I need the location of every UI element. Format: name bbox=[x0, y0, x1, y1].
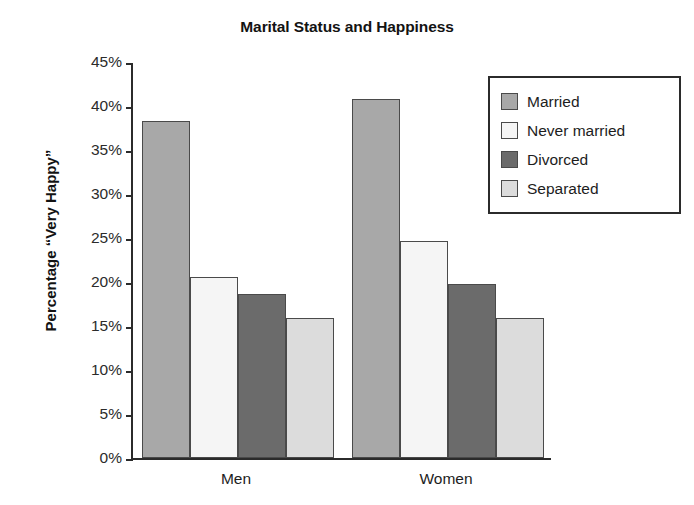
y-axis-tick-label: 35% bbox=[32, 141, 122, 159]
y-axis-tick-mark bbox=[126, 327, 133, 329]
legend-item-label: Married bbox=[527, 93, 580, 111]
y-axis-tick-mark bbox=[126, 371, 133, 373]
y-axis-tick-label: 10% bbox=[32, 361, 122, 379]
legend-swatch-icon bbox=[501, 151, 518, 168]
bar bbox=[400, 241, 448, 458]
legend-item-label: Divorced bbox=[527, 151, 588, 169]
bar bbox=[238, 294, 286, 458]
y-axis-tick-mark bbox=[126, 239, 133, 241]
legend-swatch-icon bbox=[501, 93, 518, 110]
legend-item[interactable]: Separated bbox=[501, 174, 669, 203]
bar bbox=[496, 318, 544, 458]
bar bbox=[352, 99, 400, 458]
legend-item-label: Never married bbox=[527, 122, 625, 140]
y-axis-tick-mark bbox=[126, 63, 133, 65]
y-axis-tick-label: 5% bbox=[32, 405, 122, 423]
bar bbox=[142, 121, 190, 458]
bar bbox=[448, 284, 496, 458]
y-axis-tick-label: 45% bbox=[32, 53, 122, 71]
y-axis-tick-mark bbox=[126, 459, 133, 461]
y-axis-tick-label: 30% bbox=[32, 185, 122, 203]
x-axis-group-label: Men bbox=[131, 470, 341, 488]
x-axis-group-label: Women bbox=[341, 470, 551, 488]
y-axis-tick-label: 15% bbox=[32, 317, 122, 335]
chart-title: Marital Status and Happiness bbox=[0, 18, 694, 36]
bar bbox=[190, 277, 238, 458]
y-axis-tick-label: 20% bbox=[32, 273, 122, 291]
legend-swatch-icon bbox=[501, 122, 518, 139]
legend-item-label: Separated bbox=[527, 180, 599, 198]
y-axis-tick-mark bbox=[126, 107, 133, 109]
chart-legend: MarriedNever marriedDivorcedSeparated bbox=[488, 76, 681, 214]
legend-item[interactable]: Never married bbox=[501, 116, 669, 145]
bar bbox=[286, 318, 334, 458]
y-axis-tick-label: 0% bbox=[32, 449, 122, 467]
y-axis-tick-mark bbox=[126, 283, 133, 285]
y-axis-tick-mark bbox=[126, 415, 133, 417]
y-axis-tick-label: 25% bbox=[32, 229, 122, 247]
y-axis-tick-mark bbox=[126, 195, 133, 197]
legend-item[interactable]: Married bbox=[501, 87, 669, 116]
y-axis-tick-mark bbox=[126, 151, 133, 153]
bar-chart: Marital Status and Happiness Percentage … bbox=[0, 0, 694, 505]
legend-item[interactable]: Divorced bbox=[501, 145, 669, 174]
y-axis-tick-label: 40% bbox=[32, 97, 122, 115]
legend-swatch-icon bbox=[501, 180, 518, 197]
